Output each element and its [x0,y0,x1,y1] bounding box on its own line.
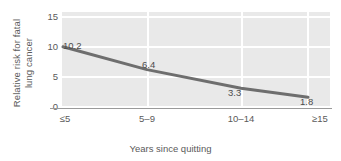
data-label-1: 10.2 [63,41,82,51]
y-axis-title-line-1: Relative risk for fatal [11,18,23,106]
y-tick-label-0: 0 [42,102,58,112]
y-axis-title-text: Relative risk for fatal lung cancer [11,18,35,106]
x-tick-label-2: 5–9 [139,113,155,124]
x-axis-title: Years since quitting [0,143,341,154]
x-tick-label-1: ≤5 [60,113,71,124]
y-tick-label-10: 10 [42,42,58,52]
chart-figure: Relative risk for fatal lung cancer 15 1… [0,0,341,161]
y-tick-label-15: 15 [42,12,58,22]
data-label-2: 6.4 [142,60,155,70]
data-label-3: 3.3 [228,88,241,98]
y-axis-title-line-2: lung cancer [23,18,35,106]
data-series-line [62,12,330,108]
y-tick-label-5: 5 [42,72,58,82]
y-axis-ticks: 15 10 5 0 [42,0,58,161]
plot-area [62,12,330,108]
data-label-4: 1.8 [300,97,313,107]
x-tick-label-3: 10–14 [228,113,254,124]
x-axis-line [50,108,332,109]
x-tick-label-4: ≥15 [312,113,328,124]
y-axis-title: Relative risk for fatal lung cancer [0,0,46,125]
